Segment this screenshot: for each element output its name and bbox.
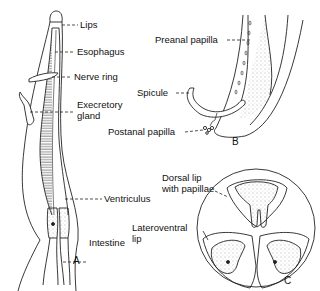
label-lips: Lips [80,20,97,30]
label-dorsal-lip-line2: with papillae [162,184,214,194]
label-spicule: Spicule [137,88,168,98]
excretory-gland-shape [19,92,34,125]
panel-label-b: B [232,136,239,147]
panel-label-a: A [73,255,80,266]
lateroventral-lip-right [267,240,301,273]
panel-a-drawing [18,11,78,291]
lips-shape [50,11,62,22]
dorsal-lip-shape [235,182,278,228]
label-dorsal-lip-line1: Dorsal lip [162,173,202,183]
panel-label-c: C [284,275,291,286]
label-nerve-ring: Nerve ring [74,72,118,82]
label-postanal-papilla: Postanal papilla [108,127,175,137]
label-intestine: Intestine [89,238,125,248]
label-lateroventral-lip-line1: Lateroventral [132,223,187,233]
label-esophagus: Esophagus [77,47,125,57]
label-ventriculus: Ventriculus [104,194,150,204]
panel-c-drawing [197,169,315,288]
label-excretory-gland-line1: Execretory [77,100,122,110]
label-preanal-papilla: Preanal papilla [155,35,218,45]
label-lateroventral-lip-line2: lip [132,234,142,244]
lateroventral-lip-left [211,240,245,273]
spicule-shape [187,88,245,117]
label-excretory-gland-line2: gland [77,111,100,121]
